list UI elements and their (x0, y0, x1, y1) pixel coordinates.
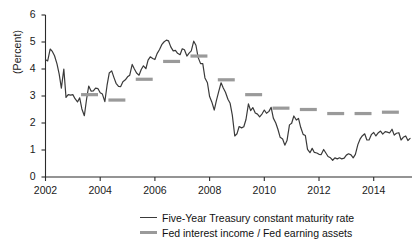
y-axis-tick-label: 1 (18, 143, 36, 155)
legend-line-swatch-icon (140, 217, 157, 218)
y-axis-tick-label: 4 (18, 62, 36, 74)
x-axis-tick-label: 2014 (354, 184, 394, 196)
series-line-treasury (46, 40, 411, 160)
legend-item-treasury: Five-Year Treasury constant maturity rat… (140, 210, 354, 225)
chart-legend: Five-Year Treasury constant maturity rat… (140, 210, 354, 240)
chart-plot-svg (0, 0, 419, 245)
y-axis-tick-label: 0 (18, 170, 36, 182)
legend-item-fed-income: Fed interest income / Fed earning assets (140, 225, 354, 240)
x-axis-tick-label: 2006 (135, 184, 175, 196)
legend-label-fed-income: Fed interest income / Fed earning assets (162, 227, 352, 239)
legend-label-treasury: Five-Year Treasury constant maturity rat… (162, 212, 354, 224)
chart-container: (Percent) 0123456 2002200420062008201020… (0, 0, 419, 245)
y-axis-tick-label: 5 (18, 35, 36, 47)
y-axis-tick-label: 3 (18, 89, 36, 101)
x-axis-tick-label: 2012 (299, 184, 339, 196)
x-axis-tick-label: 2002 (26, 184, 66, 196)
legend-bar-swatch-icon (140, 231, 157, 234)
x-axis-tick-label: 2008 (190, 184, 230, 196)
x-axis-tick-label: 2004 (80, 184, 120, 196)
y-axis-tick-label: 6 (18, 8, 36, 20)
y-axis-tick-label: 2 (18, 116, 36, 128)
x-axis-tick-label: 2010 (244, 184, 284, 196)
